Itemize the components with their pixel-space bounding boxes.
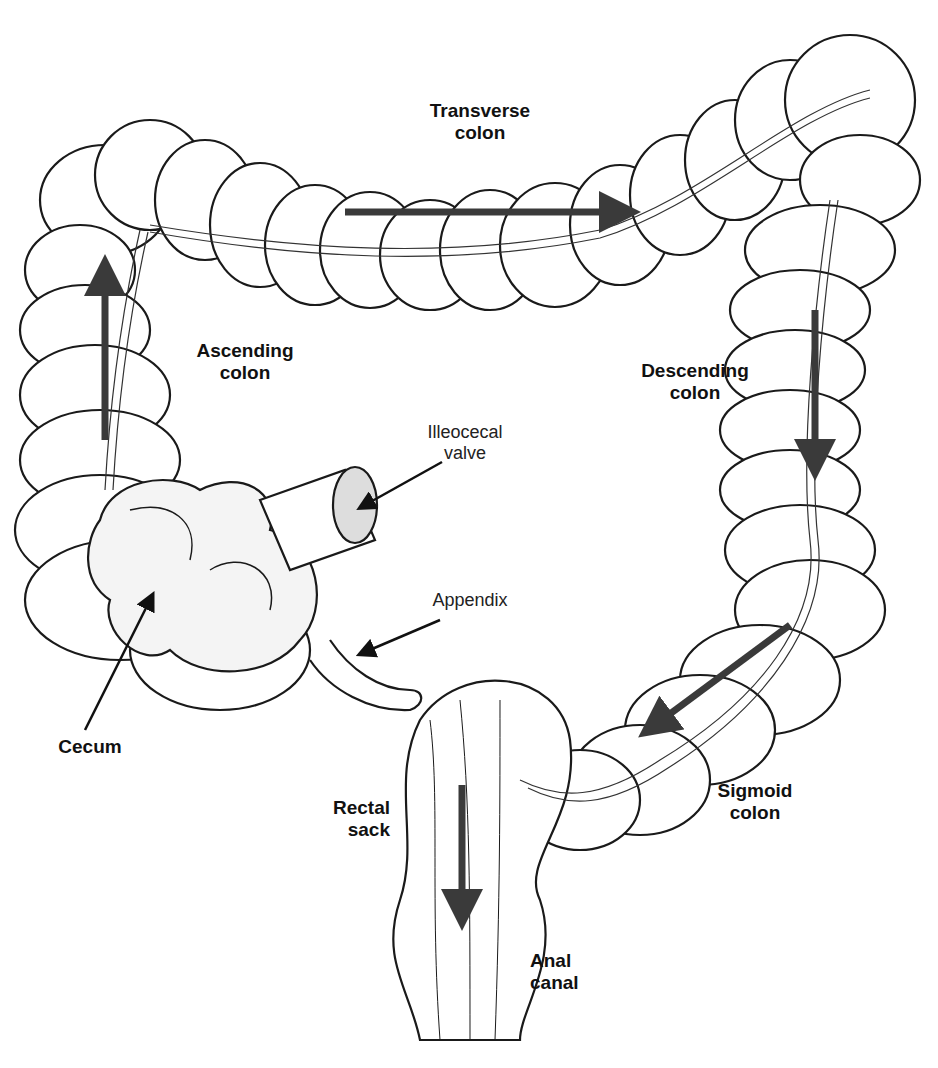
label-anal-canal: Anal canal: [530, 950, 600, 994]
colon-illustration: [0, 0, 938, 1068]
label-transverse-colon: Transverse colon: [400, 100, 560, 144]
colon-body: [15, 35, 920, 1040]
label-line: Ascending: [180, 340, 310, 362]
label-ileocecal-valve: Illeocecal valve: [410, 422, 520, 463]
label-line: Descending: [620, 360, 770, 382]
label-ascending-colon: Ascending colon: [180, 340, 310, 384]
label-line: Cecum: [45, 736, 135, 758]
label-line: valve: [410, 443, 520, 464]
label-line: Sigmoid: [705, 780, 805, 802]
label-sigmoid-colon: Sigmoid colon: [705, 780, 805, 824]
label-line: colon: [180, 362, 310, 384]
label-descending-colon: Descending colon: [620, 360, 770, 404]
label-appendix: Appendix: [420, 590, 520, 611]
label-line: sack: [300, 819, 390, 841]
label-line: colon: [705, 802, 805, 824]
label-line: Anal: [530, 950, 600, 972]
label-line: colon: [620, 382, 770, 404]
label-rectal-sack: Rectal sack: [300, 797, 390, 841]
label-line: Appendix: [420, 590, 520, 611]
label-line: Rectal: [300, 797, 390, 819]
label-line: Illeocecal: [410, 422, 520, 443]
label-line: canal: [530, 972, 600, 994]
label-cecum: Cecum: [45, 736, 135, 758]
label-line: Transverse: [400, 100, 560, 122]
label-line: colon: [400, 122, 560, 144]
